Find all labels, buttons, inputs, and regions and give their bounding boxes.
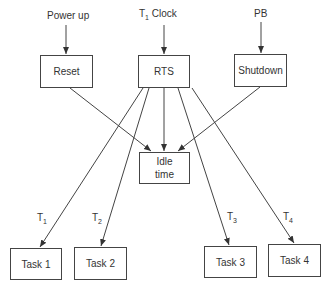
t1-edge-label: T1: [37, 212, 47, 225]
t4-edge-label: T4: [283, 211, 293, 224]
pb-label: PB: [254, 8, 267, 19]
shutdown-box: Shutdown: [234, 54, 287, 87]
task2-box: Task 2: [74, 247, 127, 280]
t2-edge-label: T2: [92, 212, 102, 225]
idle-time-box: Idle time: [139, 152, 190, 184]
power-up-label: Power up: [47, 10, 89, 21]
reset-to-idle-arrow: [70, 88, 151, 151]
task3-box: Task 3: [204, 246, 257, 278]
rts-to-task4-arrow: [192, 88, 294, 243]
t3-edge-label: T3: [227, 211, 237, 224]
clock-label: T1 Clock: [139, 8, 177, 21]
shutdown-to-idle-arrow: [178, 87, 260, 151]
task4-box: Task 4: [268, 244, 321, 277]
task1-box: Task 1: [10, 248, 62, 280]
reset-box: Reset: [40, 55, 93, 88]
diagram: Power up T1 Clock PB Reset RTS Shutdown …: [0, 0, 332, 289]
rts-box: RTS: [138, 55, 190, 88]
